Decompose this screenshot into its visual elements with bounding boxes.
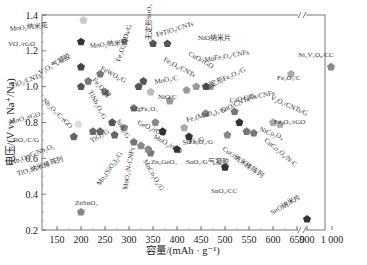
point-label: Ni₃V₂O₈/CC — [298, 51, 334, 59]
point-label: MgFe₂O₄ — [131, 105, 158, 113]
point-label: ZnSnO₃ — [75, 199, 98, 207]
point-label: Zn₂GeO₄ — [151, 158, 177, 166]
x-tick-label: 350 — [146, 234, 161, 245]
point-label: NiO纳米片 — [198, 33, 231, 42]
point-label: 无定形SnO₂ — [144, 4, 153, 40]
x-tick-label: 500 — [218, 234, 233, 245]
point-label: SnO₂/CC — [211, 187, 238, 195]
data-point — [327, 63, 335, 71]
x-tick-label: 600 — [266, 234, 281, 245]
x-tick-label: 300 — [122, 234, 137, 245]
x-tick-label: 400 — [170, 234, 185, 245]
y-tick-label: 0.4 — [26, 189, 39, 200]
point-label: Fe₂O₃/rGO — [274, 118, 305, 126]
x-tick-label: 900 — [300, 234, 315, 245]
point-label: VO₂/rGO — [8, 40, 35, 48]
point-label: TiO₂/C/G — [12, 136, 39, 144]
point-label: NiO/C — [158, 93, 177, 101]
x-axis-title: 容量/(mAh · g⁻¹) — [146, 244, 220, 257]
y-tick-label: 0.2 — [26, 225, 39, 236]
x-tick-label: 200 — [74, 234, 89, 245]
y-tick-label: 1.4 — [26, 10, 39, 21]
y-axis-title: 电压/(V vs. Na⁺/Na) — [4, 78, 17, 166]
point-label: Fe₂O₄/C — [277, 74, 301, 82]
point-label: SnO₂/G气凝胶 — [186, 157, 229, 166]
scatter-chart: 0.20.40.60.81.01.21.4 150200250300350400… — [0, 0, 367, 265]
x-tick-label: 250 — [98, 234, 113, 245]
x-tick-label: 450 — [194, 234, 209, 245]
x-tick-label: 150 — [50, 234, 65, 245]
x-tick-label: 550 — [242, 234, 257, 245]
x-tick-label: 1 000 — [321, 234, 344, 245]
